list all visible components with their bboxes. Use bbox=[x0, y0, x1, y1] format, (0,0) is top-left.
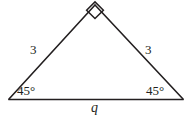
side-label-left-leg: 3 bbox=[30, 43, 37, 56]
angle-label-bottom-right: 45° bbox=[146, 84, 164, 97]
side-label-base: q bbox=[91, 101, 98, 115]
geometry-figure: 3 3 45° 45° q bbox=[0, 0, 191, 116]
angle-label-bottom-left: 45° bbox=[17, 84, 35, 97]
triangle-drawing bbox=[0, 0, 191, 116]
side-label-right-leg: 3 bbox=[145, 43, 152, 56]
triangle-side-right-leg bbox=[95, 5, 183, 99]
